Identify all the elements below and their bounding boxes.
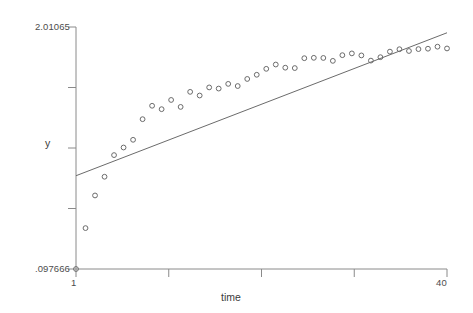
data-point-marker <box>207 85 212 90</box>
axes-group <box>76 27 447 269</box>
data-point-marker <box>216 86 221 91</box>
y-axis-tick-label-top: 2.01065 <box>20 21 70 32</box>
data-point-marker <box>359 53 364 58</box>
x-axis-title: time <box>221 291 241 303</box>
data-point-marker <box>388 49 393 54</box>
data-point-marker <box>197 93 202 98</box>
data-point-marker <box>112 153 117 158</box>
data-point-marker <box>245 77 250 82</box>
data-point-marker <box>150 103 155 108</box>
data-point-marker <box>407 49 412 54</box>
x-axis-tick-label-left: 1 <box>71 277 76 288</box>
data-point-marker <box>102 174 107 179</box>
y-axis-title: y <box>45 137 50 149</box>
data-point-marker <box>340 53 345 58</box>
data-point-marker <box>426 46 431 51</box>
data-point-marker <box>83 226 88 231</box>
data-point-marker <box>254 72 259 77</box>
data-point-marker <box>330 58 335 63</box>
y-axis-ticks <box>68 27 76 269</box>
scatter-markers <box>74 44 450 271</box>
data-point-marker <box>131 137 136 142</box>
scatter-plot-chart: 2.01065 .097666 1 40 y time <box>0 0 473 313</box>
fitted-line <box>76 33 447 176</box>
data-point-marker <box>283 65 288 70</box>
data-point-marker <box>264 66 269 71</box>
data-point-marker <box>292 66 297 71</box>
data-point-marker <box>349 51 354 56</box>
data-point-marker <box>235 84 240 89</box>
data-point-marker <box>140 117 145 122</box>
x-axis-ticks <box>76 269 447 277</box>
data-point-marker <box>93 193 98 198</box>
data-point-marker <box>435 44 440 49</box>
data-point-marker <box>302 56 307 61</box>
data-point-marker <box>273 62 278 67</box>
data-point-marker <box>226 81 231 86</box>
fitted-line-segment <box>76 33 447 176</box>
data-point-marker <box>178 105 183 110</box>
data-point-marker <box>445 46 450 51</box>
x-axis-tick-label-right: 40 <box>436 277 447 288</box>
data-point-marker <box>311 55 316 60</box>
data-point-marker <box>169 98 174 103</box>
y-axis-tick-label-bottom: .097666 <box>20 263 70 274</box>
plot-canvas <box>0 0 473 313</box>
data-point-marker <box>321 56 326 61</box>
data-point-marker <box>121 145 126 150</box>
data-point-marker <box>159 107 164 112</box>
data-point-marker <box>416 47 421 52</box>
data-point-marker <box>188 89 193 94</box>
